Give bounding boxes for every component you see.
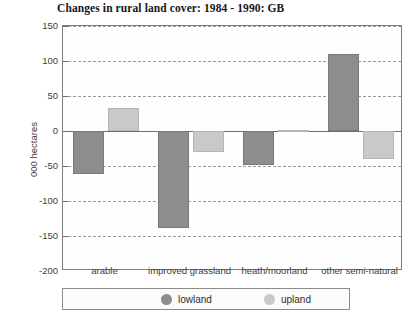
y-tick-label: -100 [24, 195, 58, 206]
y-tick-label: -150 [24, 230, 58, 241]
y-tick-mark [63, 131, 68, 132]
y-tick-mark [63, 236, 68, 237]
x-axis: arableimproved grasslandheath/moorlandot… [62, 265, 402, 283]
legend-label: lowland [178, 294, 212, 305]
y-tick-label: -200 [24, 265, 58, 276]
y-tick-mark [63, 166, 68, 167]
y-axis: 000 hectares 150100500-50-100-150-200 [20, 25, 58, 270]
bar-lowland-other-semi-natural[interactable] [328, 54, 359, 131]
gridline [63, 201, 401, 202]
bar-upland-arable[interactable] [108, 108, 139, 131]
legend-swatch-upland-icon [264, 294, 275, 305]
y-tick-mark [63, 61, 68, 62]
gridline [63, 26, 401, 27]
page-title: Changes in rural land cover: 1984 - 1990… [57, 2, 284, 14]
bar-lowland-improved-grassland[interactable] [158, 131, 189, 228]
chart-page: Changes in rural land cover: 1984 - 1990… [0, 0, 414, 313]
legend-items: lowlandupland [63, 289, 349, 309]
y-tick-label: -50 [24, 160, 58, 171]
gridline [63, 166, 401, 167]
legend-entry-upland[interactable]: upland [264, 294, 311, 305]
x-tick-label: other semi-natural [321, 265, 398, 276]
y-tick-mark [63, 26, 68, 27]
plot-inner [63, 26, 401, 269]
bar-upland-other-semi-natural[interactable] [363, 131, 394, 159]
y-tick-mark [63, 96, 68, 97]
y-tick-label: 0 [24, 125, 58, 136]
x-tick-label: arable [91, 265, 117, 276]
gridline [63, 236, 401, 237]
plot-area [62, 25, 402, 270]
bar-upland-heath-moorland[interactable] [278, 130, 309, 132]
zero-line [63, 131, 401, 132]
legend-swatch-lowland-icon [161, 294, 172, 305]
x-tick-label: improved grassland [148, 265, 231, 276]
bar-lowland-arable[interactable] [73, 131, 104, 174]
bar-lowland-heath-moorland[interactable] [243, 131, 274, 165]
legend-entry-lowland[interactable]: lowland [161, 294, 212, 305]
y-tick-label: 50 [24, 90, 58, 101]
y-axis-title: 000 hectares [28, 104, 39, 196]
y-tick-mark [63, 201, 68, 202]
y-tick-label: 100 [24, 55, 58, 66]
legend: lowlandupland [62, 288, 350, 310]
x-tick-label: heath/moorland [241, 265, 307, 276]
legend-label: upland [281, 294, 311, 305]
bar-upland-improved-grassland[interactable] [193, 131, 224, 152]
y-tick-label: 150 [24, 20, 58, 31]
